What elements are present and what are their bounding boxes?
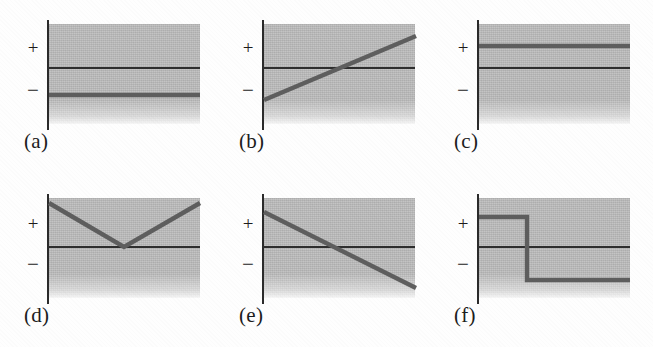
panel-e-plot-area: [263, 198, 415, 298]
figure-six-panel-sign-plots: + − (a) + − (b) + − (c) + − (d: [0, 0, 653, 347]
panel-d-zero-line: [48, 246, 200, 248]
panel-e-vertical-axis: [262, 194, 264, 304]
panel-d-caption: (d): [24, 305, 49, 326]
panel-a-plus-label: +: [24, 38, 42, 57]
panel-c-zero-line: [478, 67, 630, 69]
panel-e-plus-label: +: [239, 214, 257, 233]
panel-b-plus-label: +: [239, 38, 257, 57]
panel-b-minus-label: −: [239, 80, 257, 101]
panel-c-caption: (c): [454, 131, 478, 152]
panel-f-zero-line: [478, 246, 630, 248]
panel-c-plus-label: +: [454, 38, 472, 57]
panel-b-zero-line: [263, 67, 415, 69]
panel-f-caption: (f): [454, 305, 476, 326]
panel-f-plus-label: +: [454, 214, 472, 233]
panel-b-plot-area: [263, 24, 415, 124]
panel-d-vertical-axis: [47, 194, 49, 304]
panel-c-vertical-axis: [477, 20, 479, 130]
panel-a-vertical-axis: [47, 20, 49, 130]
panel-d-plot-area: [48, 198, 200, 298]
panel-d-minus-label: −: [24, 254, 42, 275]
panel-a-caption: (a): [24, 131, 48, 152]
panel-c-plot-area: [478, 24, 630, 124]
panel-c-minus-label: −: [454, 80, 472, 101]
panel-f-plot-area: [478, 198, 630, 298]
panel-e-caption: (e): [239, 305, 263, 326]
panel-f-vertical-axis: [477, 194, 479, 304]
panel-d-plus-label: +: [24, 214, 42, 233]
panel-a-minus-label: −: [24, 80, 42, 101]
panel-a-plot-area: [48, 24, 200, 124]
panel-b-vertical-axis: [262, 20, 264, 130]
panel-e-minus-label: −: [239, 254, 257, 275]
panel-e-zero-line: [263, 246, 415, 248]
panel-f-minus-label: −: [454, 254, 472, 275]
panel-a-zero-line: [48, 67, 200, 69]
panel-b-caption: (b): [239, 131, 264, 152]
